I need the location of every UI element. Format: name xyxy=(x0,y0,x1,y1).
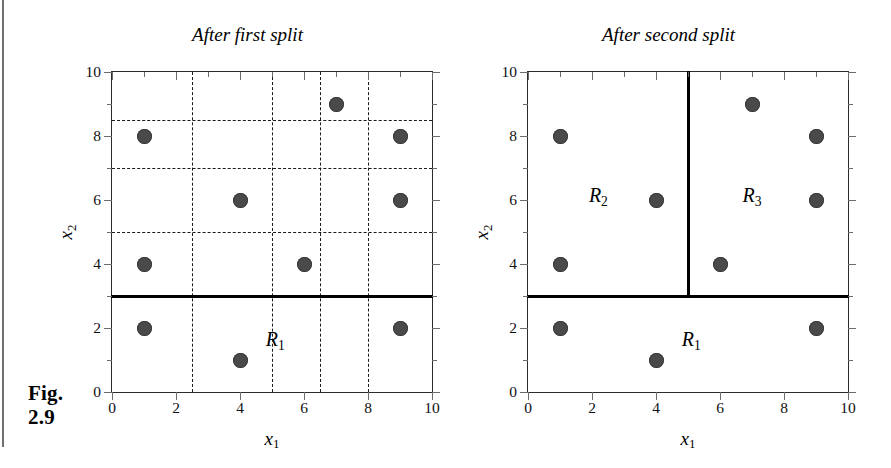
y-axis-minor-tick xyxy=(107,104,112,105)
x-axis-tick-top xyxy=(784,72,785,80)
y-axis-tick-label: 4 xyxy=(93,255,101,273)
y-axis-minor-tick xyxy=(107,168,112,169)
y-axis-tick-label: 10 xyxy=(502,63,518,81)
y-axis-tick-label: 8 xyxy=(93,127,101,145)
y-axis-title: x2 xyxy=(55,225,79,240)
y-axis-tick xyxy=(104,136,112,137)
x-axis-tick-label: 4 xyxy=(236,399,244,417)
data-point xyxy=(809,193,824,208)
y-axis-tick xyxy=(520,328,528,329)
data-point xyxy=(553,129,568,144)
x-axis-tick-label: 4 xyxy=(652,399,660,417)
data-point xyxy=(137,257,152,272)
y-axis-minor-tick xyxy=(107,296,112,297)
x-axis-tick-top xyxy=(304,72,305,80)
y-axis-tick-label: 2 xyxy=(509,319,517,337)
y-axis-tick-label: 6 xyxy=(509,191,517,209)
region-label-R2: R2 xyxy=(589,184,608,209)
x-axis-tick-label: 0 xyxy=(108,399,116,417)
y-axis-minor-tick-right xyxy=(848,168,853,169)
y-axis-tick xyxy=(520,200,528,201)
x-axis-minor-tick-top xyxy=(624,72,625,77)
candidate-split-gridline-vertical xyxy=(192,72,193,392)
x-axis-minor-tick-top xyxy=(816,72,817,77)
x-axis-tick-top xyxy=(176,72,177,80)
y-axis-tick-label: 8 xyxy=(509,127,517,145)
y-axis-tick xyxy=(520,392,528,393)
x-axis-minor-tick-top xyxy=(400,72,401,77)
x-axis-minor-tick-top xyxy=(272,72,273,77)
y-axis-minor-tick xyxy=(523,232,528,233)
x-axis-tick-label: 0 xyxy=(524,399,532,417)
y-axis-minor-tick xyxy=(523,296,528,297)
y-axis-tick-label: 0 xyxy=(509,383,517,401)
data-point xyxy=(393,321,408,336)
data-point xyxy=(809,129,824,144)
x-axis-minor-tick-top xyxy=(336,72,337,77)
y-axis-title: x2 xyxy=(471,225,495,240)
y-axis-tick-right xyxy=(848,264,856,265)
data-point xyxy=(553,257,568,272)
x-axis-minor-tick-top xyxy=(560,72,561,77)
y-axis-minor-tick-right xyxy=(848,360,853,361)
region-label-R1: R1 xyxy=(266,328,285,353)
x-axis-tick-label: 8 xyxy=(780,399,788,417)
y-axis-tick-right xyxy=(848,200,856,201)
plot-area: R2R3R102468100246810x1x2 xyxy=(527,71,849,393)
candidate-split-gridline-vertical xyxy=(320,72,321,392)
y-axis-minor-tick xyxy=(523,104,528,105)
x-axis-minor-tick-top xyxy=(144,72,145,77)
data-point xyxy=(137,321,152,336)
candidate-split-gridline-horizontal xyxy=(112,120,432,121)
x-axis-minor-tick-top xyxy=(752,72,753,77)
y-axis-tick xyxy=(104,328,112,329)
candidate-split-gridline-horizontal xyxy=(112,232,432,233)
x-axis-tick-top xyxy=(592,72,593,80)
y-axis-tick-label: 6 xyxy=(93,191,101,209)
y-axis-minor-tick xyxy=(107,232,112,233)
x-axis-tick-top xyxy=(720,72,721,80)
data-point xyxy=(297,257,312,272)
y-axis-minor-tick-right xyxy=(848,296,853,297)
x-axis-tick-label: 10 xyxy=(840,399,856,417)
data-point xyxy=(745,97,760,112)
plot-area: R102468100246810x1x2 xyxy=(111,71,433,393)
region-label-R1: R1 xyxy=(682,328,701,353)
x-axis-tick-top xyxy=(848,72,849,80)
x-axis-tick-top xyxy=(656,72,657,80)
x-axis-minor-tick-top xyxy=(688,72,689,77)
y-axis-tick xyxy=(520,72,528,73)
candidate-split-gridline-vertical xyxy=(368,72,369,392)
data-point xyxy=(233,193,248,208)
y-axis-minor-tick-right xyxy=(848,104,853,105)
x-axis-tick-top xyxy=(528,72,529,80)
region-label-R3: R3 xyxy=(742,184,761,209)
y-axis-tick-right xyxy=(848,136,856,137)
x-axis-tick-label: 6 xyxy=(716,399,724,417)
candidate-split-gridline-horizontal xyxy=(112,168,432,169)
x-axis-minor-tick-top xyxy=(208,72,209,77)
data-point xyxy=(649,353,664,368)
split-line-vertical xyxy=(687,71,690,296)
x-axis-tick-top xyxy=(112,72,113,80)
y-axis-tick-right xyxy=(848,328,856,329)
panel-title: After first split xyxy=(0,24,445,46)
y-axis-tick xyxy=(104,72,112,73)
x-axis-title: x1 xyxy=(265,428,280,452)
data-point xyxy=(809,321,824,336)
data-point xyxy=(649,193,664,208)
y-axis-tick xyxy=(520,264,528,265)
y-axis-tick xyxy=(520,136,528,137)
panel-after-second-split: After second split R2R3R102468100246810x… xyxy=(415,0,860,468)
x-axis-tick-top xyxy=(240,72,241,80)
panel-after-first-split: After first split R102468100246810x1x2 xyxy=(0,0,445,468)
y-axis-minor-tick-right xyxy=(848,232,853,233)
data-point xyxy=(329,97,344,112)
data-point xyxy=(233,353,248,368)
y-axis-tick xyxy=(104,200,112,201)
x-axis-tick-label: 2 xyxy=(588,399,596,417)
data-point xyxy=(553,321,568,336)
y-axis-tick xyxy=(104,264,112,265)
y-axis-tick-label: 4 xyxy=(509,255,517,273)
x-axis-tick-label: 2 xyxy=(172,399,180,417)
